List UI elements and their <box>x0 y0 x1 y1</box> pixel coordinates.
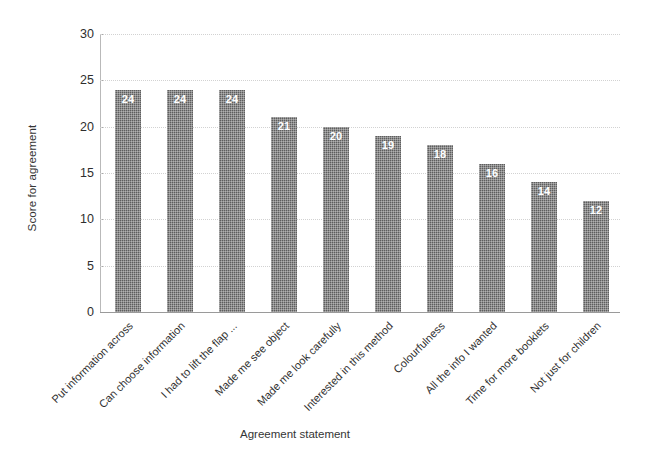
bar-value-6: 18 <box>427 148 453 160</box>
y-tick-label-20: 20 <box>60 120 94 134</box>
y-axis-title: Score for agreement <box>26 83 38 273</box>
y-tick-label-5: 5 <box>60 259 94 273</box>
bar-value-1: 24 <box>167 93 193 105</box>
bar-value-8: 14 <box>531 185 557 197</box>
y-tick-label-15: 15 <box>60 166 94 180</box>
y-tick-label-10: 10 <box>60 212 94 226</box>
bar-value-0: 24 <box>115 93 141 105</box>
bar-value-5: 19 <box>375 139 401 151</box>
bar-8[interactable]: 14 <box>531 182 557 312</box>
bar-value-3: 21 <box>271 120 297 132</box>
gridline-30 <box>100 34 620 35</box>
bar-value-7: 16 <box>479 167 505 179</box>
gridline-25 <box>100 80 620 81</box>
x-axis-title: Agreement statement <box>195 428 395 440</box>
bar-chart-figure: Score for agreement 30 25 20 15 10 5 0 2… <box>0 0 655 464</box>
bar-value-4: 20 <box>323 130 349 142</box>
y-axis-tick-labels: 30 25 20 15 10 5 0 <box>56 34 94 312</box>
bar-0[interactable]: 24 <box>115 90 141 312</box>
y-tick-label-0: 0 <box>60 305 94 319</box>
bar-value-2: 24 <box>219 93 245 105</box>
x-axis-baseline <box>100 312 620 313</box>
bar-value-9: 12 <box>583 204 609 216</box>
y-tick-label-25: 25 <box>60 73 94 87</box>
y-tick-label-30: 30 <box>60 27 94 41</box>
